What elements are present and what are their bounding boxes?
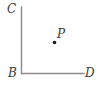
- point-p-marker: [53, 41, 57, 45]
- geometry-figure: C B D P: [0, 0, 102, 90]
- vertex-label-b: B: [8, 67, 17, 79]
- vertex-label-d: D: [85, 67, 95, 79]
- vertex-label-c: C: [7, 3, 16, 15]
- point-label-p: P: [57, 28, 65, 40]
